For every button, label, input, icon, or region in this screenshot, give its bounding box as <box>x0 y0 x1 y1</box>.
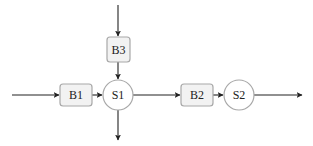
block-b3: B3 <box>107 37 130 62</box>
node-s1-label: S1 <box>112 88 125 102</box>
node-s2-label: S2 <box>233 88 246 102</box>
block-b1-label: B1 <box>69 88 83 102</box>
block-b3-label: B3 <box>111 43 125 57</box>
block-b2: B2 <box>181 84 213 106</box>
block-b2-label: B2 <box>190 88 204 102</box>
block-b1: B1 <box>60 84 92 106</box>
node-s1: S1 <box>103 80 133 110</box>
node-s2: S2 <box>224 80 254 110</box>
block-diagram: B1 B3 B2 S1 S2 <box>0 0 313 146</box>
